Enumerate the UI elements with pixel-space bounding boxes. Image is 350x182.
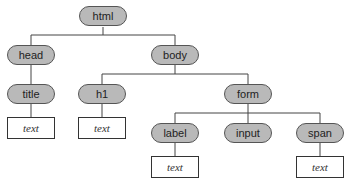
node-label: label — [151, 123, 199, 143]
leaf-title-text: text — [7, 117, 55, 139]
node-head: head — [7, 45, 55, 65]
node-input: input — [224, 123, 272, 143]
leaf-span-text: text — [296, 156, 344, 178]
node-html: html — [79, 6, 127, 26]
leaf-label-text: text — [151, 156, 199, 178]
leaf-h1-text: text — [78, 117, 126, 139]
node-title: title — [7, 84, 55, 104]
node-span: span — [296, 123, 344, 143]
node-h1: h1 — [78, 84, 126, 104]
dom-tree-diagram: html head body title h1 form label input… — [0, 0, 350, 182]
node-body: body — [151, 45, 199, 65]
node-form: form — [224, 84, 272, 104]
